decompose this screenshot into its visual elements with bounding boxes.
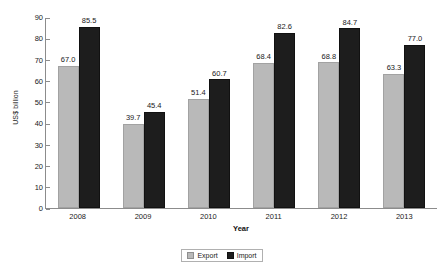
legend-label: Export xyxy=(197,252,217,259)
plot-area: 0102030405060708090 67.085.539.745.451.4… xyxy=(45,18,437,209)
y-axis-tick-label: 30 xyxy=(35,142,46,150)
bar-value-label: 68.8 xyxy=(321,53,336,61)
bar-column-export: 67.0 xyxy=(58,18,79,208)
y-axis-tick-label: 60 xyxy=(35,78,46,86)
bar-value-label: 84.7 xyxy=(342,19,357,27)
legend-box: ExportImport xyxy=(181,249,262,262)
bar-value-label: 85.5 xyxy=(82,17,97,25)
y-axis-title: US$ billion xyxy=(4,0,26,215)
bar-value-label: 51.4 xyxy=(191,89,206,97)
bar-import-2010[interactable] xyxy=(209,79,230,208)
bar-value-label: 68.4 xyxy=(256,53,271,61)
bar-value-label: 45.4 xyxy=(147,102,162,110)
bar-group: 63.377.0 xyxy=(372,18,437,208)
legend-swatch-icon xyxy=(187,252,194,259)
bar-export-2011[interactable] xyxy=(253,63,274,208)
bar-value-label: 82.6 xyxy=(277,23,292,31)
bar-import-2009[interactable] xyxy=(144,112,165,208)
bar-import-2008[interactable] xyxy=(79,27,100,208)
bar-column-import: 60.7 xyxy=(209,18,230,208)
x-axis-tick-label: 2012 xyxy=(306,210,371,224)
y-axis-title-label: US$ billion xyxy=(12,90,19,125)
y-axis-tick-label: 40 xyxy=(35,120,46,128)
y-axis-tick-label: 70 xyxy=(35,57,46,65)
legend-swatch-icon xyxy=(227,252,234,259)
bar-chart: US$ billion 0102030405060708090 67.085.5… xyxy=(0,0,444,277)
x-axis-tick-label: 2008 xyxy=(45,210,110,224)
bar-column-export: 51.4 xyxy=(188,18,209,208)
bar-column-export: 63.3 xyxy=(383,18,404,208)
bar-column-export: 68.8 xyxy=(318,18,339,208)
legend-item-export[interactable]: Export xyxy=(187,252,217,259)
bar-import-2012[interactable] xyxy=(339,28,360,208)
bar-column-import: 77.0 xyxy=(404,18,425,208)
bar-export-2012[interactable] xyxy=(318,62,339,208)
bar-export-2010[interactable] xyxy=(188,99,209,208)
bar-column-export: 68.4 xyxy=(253,18,274,208)
bar-value-label: 39.7 xyxy=(126,114,141,122)
y-axis-tick-label: 50 xyxy=(35,99,46,107)
bar-export-2013[interactable] xyxy=(383,74,404,208)
bar-column-import: 85.5 xyxy=(79,18,100,208)
bar-import-2011[interactable] xyxy=(274,33,295,208)
bar-group: 51.460.7 xyxy=(176,18,241,208)
y-axis-tick-label: 90 xyxy=(35,14,46,22)
chart-legend: ExportImport xyxy=(0,249,444,262)
bar-value-label: 67.0 xyxy=(61,56,76,64)
bar-group: 67.085.5 xyxy=(46,18,111,208)
bar-group: 68.884.7 xyxy=(307,18,372,208)
x-axis-tick-label: 2009 xyxy=(110,210,175,224)
bar-value-label: 77.0 xyxy=(408,35,423,43)
legend-label: Import xyxy=(237,252,257,259)
bar-value-label: 60.7 xyxy=(212,70,227,78)
y-axis-tick-label: 80 xyxy=(35,35,46,43)
y-axis-tick-label: 10 xyxy=(35,184,46,192)
bar-column-export: 39.7 xyxy=(123,18,144,208)
bar-groups: 67.085.539.745.451.460.768.482.668.884.7… xyxy=(46,18,437,208)
x-axis-tick-label: 2011 xyxy=(241,210,306,224)
bar-column-import: 45.4 xyxy=(144,18,165,208)
bar-group: 39.745.4 xyxy=(111,18,176,208)
bar-import-2013[interactable] xyxy=(404,45,425,208)
bar-value-label: 63.3 xyxy=(387,64,402,72)
bar-group: 68.482.6 xyxy=(242,18,307,208)
bar-export-2008[interactable] xyxy=(58,66,79,208)
x-axis-tick-label: 2013 xyxy=(372,210,437,224)
bar-export-2009[interactable] xyxy=(123,124,144,208)
bar-column-import: 82.6 xyxy=(274,18,295,208)
x-axis-tick-labels: 200820092010201120122013 xyxy=(45,210,437,224)
x-axis-tick-label: 2010 xyxy=(176,210,241,224)
bar-column-import: 84.7 xyxy=(339,18,360,208)
legend-item-import[interactable]: Import xyxy=(227,252,257,259)
y-axis-tick-label: 20 xyxy=(35,163,46,171)
x-axis-title: Year xyxy=(45,224,437,233)
